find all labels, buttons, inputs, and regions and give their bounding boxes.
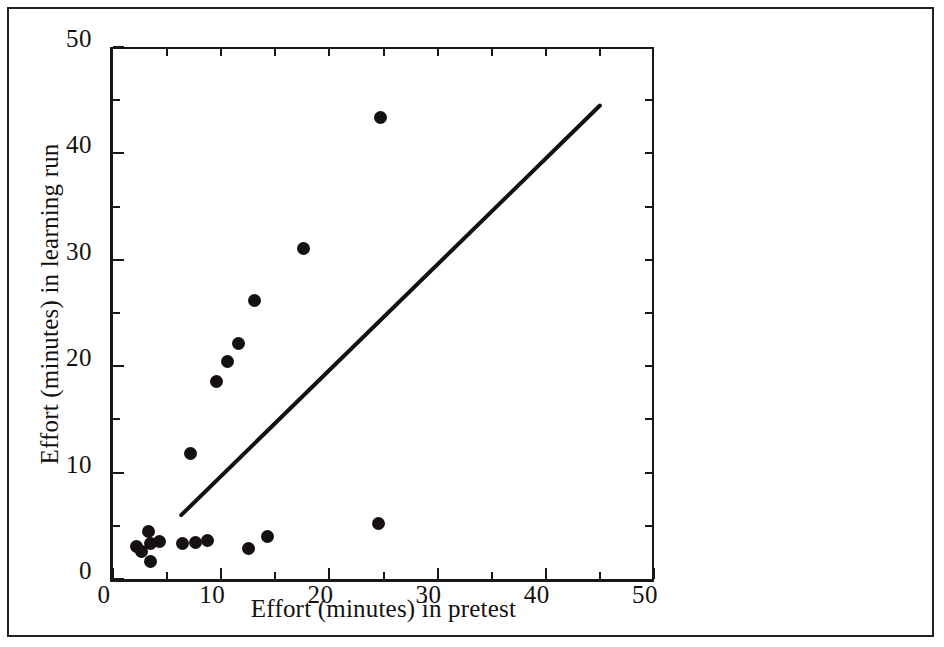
data-point [201,534,214,547]
figure-container: 01020304050 01020304050 Effort (minutes)… [0,0,944,647]
x-tick-label: 0 [98,582,111,607]
y-tick-label: 0 [46,558,92,583]
x-axis-line [113,579,654,582]
fitted-trend-line [113,47,654,579]
data-point [210,375,223,388]
y-axis-title: Effort (minutes) in learning run [37,143,62,464]
figure-border: 01020304050 01020304050 Effort (minutes)… [7,7,934,637]
y-tick-label: 50 [46,26,92,51]
data-point [297,242,310,255]
data-point [189,536,202,549]
data-point [248,294,261,307]
data-point [242,542,255,555]
x-axis-title: Effort (minutes) in pretest [113,596,654,621]
plot-area [113,47,654,579]
data-point [374,111,387,124]
data-point [372,517,385,530]
data-point [142,525,155,538]
